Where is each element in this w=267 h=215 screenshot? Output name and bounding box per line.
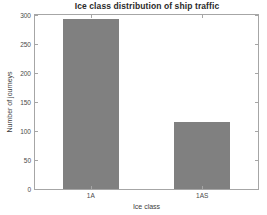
y-tick-mark xyxy=(35,131,38,132)
y-tick-mark xyxy=(35,160,38,161)
y-tick-label: 0 xyxy=(27,186,31,193)
y-tick-mark xyxy=(35,15,38,16)
x-tick-label: 1A xyxy=(87,192,95,199)
bar xyxy=(63,19,119,189)
y-tick-mark-right xyxy=(255,160,258,161)
y-tick-mark-right xyxy=(255,102,258,103)
x-tick-label: 1AS xyxy=(196,192,208,199)
plot-area: 0501001502002503001A1AS xyxy=(34,14,259,190)
y-tick-mark-right xyxy=(255,44,258,45)
y-tick-label: 250 xyxy=(20,41,31,48)
x-tick-mark xyxy=(91,186,92,189)
y-tick-label: 200 xyxy=(20,70,31,77)
y-tick-mark xyxy=(35,73,38,74)
bar xyxy=(174,122,230,189)
y-tick-mark-right xyxy=(255,131,258,132)
y-tick-label: 150 xyxy=(20,99,31,106)
x-tick-mark-top xyxy=(202,15,203,18)
y-tick-label: 100 xyxy=(20,128,31,135)
figure-canvas: Ice class distribution of ship traffic 0… xyxy=(0,0,267,215)
chart-title: Ice class distribution of ship traffic xyxy=(34,1,260,11)
y-tick-mark xyxy=(35,189,38,190)
y-tick-mark-right xyxy=(255,73,258,74)
x-axis-label: Ice class xyxy=(34,203,259,210)
x-tick-mark-top xyxy=(91,15,92,18)
y-tick-label: 50 xyxy=(24,157,31,164)
y-axis-label-text: Number of journeys xyxy=(6,71,13,132)
x-tick-mark xyxy=(202,186,203,189)
y-tick-mark xyxy=(35,44,38,45)
y-tick-mark xyxy=(35,102,38,103)
y-tick-mark-right xyxy=(255,15,258,16)
y-tick-mark-right xyxy=(255,189,258,190)
y-tick-label: 300 xyxy=(20,12,31,19)
